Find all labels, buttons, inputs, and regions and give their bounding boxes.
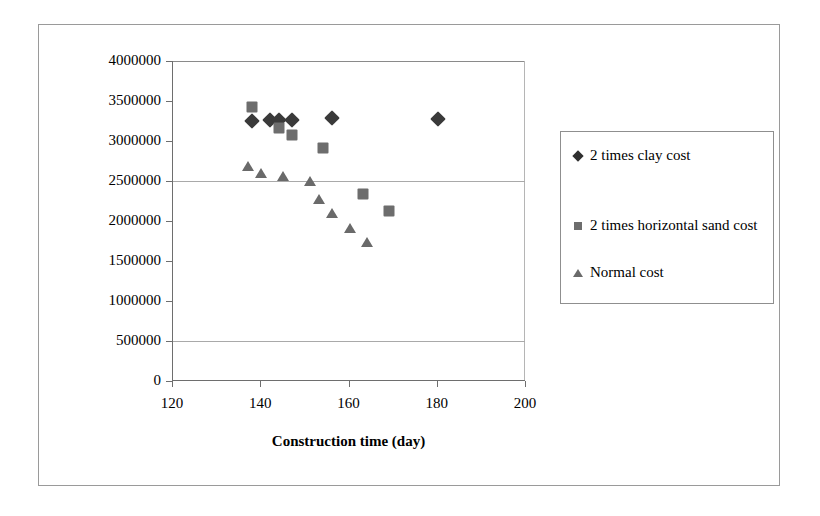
data-point-triangle [313, 194, 325, 204]
data-point-triangle [277, 171, 289, 181]
y-tick-label: 2000000 [109, 213, 162, 228]
data-point-diamond [284, 112, 300, 128]
x-tick-label: 180 [397, 396, 477, 411]
x-tick-mark [260, 381, 261, 387]
data-point-square [384, 206, 395, 217]
x-tick-mark [349, 381, 350, 387]
y-tick-label: 4000000 [109, 53, 162, 68]
x-axis-title: Construction time (day) [172, 433, 525, 450]
data-point-diamond [430, 112, 446, 128]
data-point-square [273, 123, 284, 134]
plot-top-border [173, 61, 525, 62]
legend-square-icon [571, 220, 585, 232]
legend-entry-3[interactable]: Normal cost [571, 263, 769, 282]
x-tick-label: 160 [309, 396, 389, 411]
chart-page: Construction cost (€) 050000010000001500… [0, 0, 820, 516]
x-tick-mark [437, 381, 438, 387]
legend-label: 2 times horizontal sand cost [590, 216, 757, 235]
y-tick-label: 1500000 [109, 253, 162, 268]
chart-legend: 2 times clay cost2 times horizontal sand… [560, 131, 774, 304]
x-tick-label: 140 [220, 396, 300, 411]
data-point-diamond [245, 113, 261, 129]
y-tick-label: 500000 [116, 333, 161, 348]
x-tick-label: 200 [485, 396, 565, 411]
y-tick-label: 3500000 [109, 93, 162, 108]
data-point-triangle [242, 161, 254, 171]
legend-entry-1[interactable]: 2 times clay cost [571, 146, 769, 165]
data-point-square [318, 143, 329, 154]
plot-right-border [524, 61, 525, 380]
legend-swatch-shape [574, 222, 582, 230]
x-tick-label: 120 [132, 396, 212, 411]
data-point-diamond [324, 110, 340, 126]
legend-swatch-shape [573, 269, 583, 277]
data-point-triangle [255, 168, 267, 178]
data-point-square [247, 102, 258, 113]
legend-label: 2 times clay cost [590, 146, 690, 165]
data-point-triangle [326, 208, 338, 218]
legend-label: Normal cost [590, 263, 664, 282]
data-point-square [357, 188, 368, 199]
x-tick-mark [525, 381, 526, 387]
y-tick-label: 2500000 [109, 173, 162, 188]
y-tick-label: 3000000 [109, 133, 162, 148]
y-tick-label: 1000000 [109, 293, 162, 308]
data-point-triangle [304, 176, 316, 186]
data-point-square [287, 130, 298, 141]
legend-swatch-shape [572, 150, 583, 161]
legend-diamond-icon [571, 150, 585, 162]
gridline-2500000 [173, 181, 525, 182]
plot-area [172, 61, 525, 381]
x-tick-mark [172, 381, 173, 387]
y-tick-label: 0 [154, 373, 162, 388]
legend-entry-2[interactable]: 2 times horizontal sand cost [571, 216, 769, 235]
data-point-triangle [361, 237, 373, 247]
gridline-500000 [173, 341, 525, 342]
data-point-triangle [344, 223, 356, 233]
legend-triangle-icon [571, 267, 585, 279]
